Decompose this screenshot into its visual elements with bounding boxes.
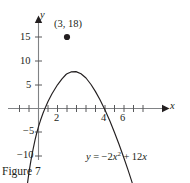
y-axis-tick-label-15: 15 [20, 32, 31, 43]
equation-coef-b: 12 [132, 151, 143, 162]
equation-var-x2: x [142, 151, 147, 162]
x-axis-arrow-icon [162, 105, 170, 112]
x-axis-label: x [170, 101, 175, 112]
x-axis-tick-label-6: 6 [120, 113, 125, 124]
parabola-curve [28, 72, 133, 183]
y-axis-tick-label-10: 10 [20, 56, 31, 67]
vertex-coordinate-label: (3, 18) [54, 19, 82, 30]
y-axis-tick-label-neg5: −5 [23, 126, 34, 137]
x-axis-tick-label-4: 4 [101, 113, 106, 124]
equation-exponent: 2 [117, 150, 121, 158]
equation-plus: + [123, 151, 129, 162]
x-axis-tick-label-2: 2 [54, 113, 59, 124]
figure-caption: Figure 7 [2, 166, 41, 178]
y-axis-tick-label-neg10: −10 [17, 150, 33, 161]
equation-coef-a: −2 [102, 151, 113, 162]
vertex-point-marker [64, 34, 70, 40]
equation-label: y=−2x2+12x [86, 152, 147, 163]
y-axis-label: y [40, 10, 45, 21]
equation-lhs: y [86, 151, 91, 162]
figure-container: 15 10 5 −5 −10 2 4 6 x y (3, 18) y=−2x2+… [0, 0, 190, 183]
equation-equals: = [93, 151, 99, 162]
y-axis-tick-label-5: 5 [26, 80, 31, 91]
